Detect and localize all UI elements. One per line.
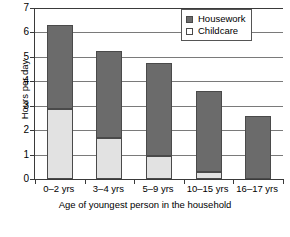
legend-label-childcare: Childcare xyxy=(198,26,238,36)
legend-label-housework: Housework xyxy=(198,14,246,24)
bar-segment-housework xyxy=(146,63,172,156)
bar-segment-childcare xyxy=(96,138,122,179)
x-tick-label: 0–2 yrs xyxy=(34,183,84,194)
legend-item-housework: Housework xyxy=(186,13,246,25)
x-tick-label: 16–17 yrs xyxy=(232,183,282,194)
bar-segment-housework xyxy=(47,25,73,109)
y-tick-6 xyxy=(30,32,35,33)
y-tick-label-2: 2 xyxy=(11,125,29,135)
bar-segment-housework xyxy=(96,51,122,138)
y-tick-label-4: 4 xyxy=(11,76,29,86)
bar-segment-housework xyxy=(196,91,222,172)
y-tick-label-6: 6 xyxy=(11,27,29,37)
bar-segment-childcare xyxy=(146,156,172,179)
chart-legend: Housework Childcare xyxy=(181,9,252,41)
x-axis-title: Age of youngest person in the household xyxy=(0,199,290,210)
stacked-bar-chart: Hours per day 76543210 0–2 yrs3–4 yrs5–9… xyxy=(0,0,290,237)
x-tick xyxy=(283,179,284,184)
y-tick-label-0: 0 xyxy=(11,174,29,184)
bar-segment-childcare xyxy=(47,109,73,179)
y-tick-4 xyxy=(30,81,35,82)
y-tick-label-7: 7 xyxy=(11,3,29,13)
x-tick-label: 10–15 yrs xyxy=(183,183,233,194)
bar-segment-housework xyxy=(245,116,271,180)
y-tick-3 xyxy=(30,106,35,107)
legend-item-childcare: Childcare xyxy=(186,25,246,37)
x-tick-label: 5–9 yrs xyxy=(133,183,183,194)
bar-group xyxy=(96,8,122,179)
bar-group xyxy=(146,8,172,179)
legend-swatch-childcare-icon xyxy=(186,28,193,35)
y-tick-2 xyxy=(30,130,35,131)
bar-segment-childcare xyxy=(196,172,222,179)
y-tick-7 xyxy=(30,8,35,9)
legend-swatch-housework-icon xyxy=(186,16,193,23)
y-tick-5 xyxy=(30,57,35,58)
y-tick-1 xyxy=(30,155,35,156)
x-tick-label: 3–4 yrs xyxy=(84,183,134,194)
y-tick-label-3: 3 xyxy=(11,101,29,111)
y-tick-label-5: 5 xyxy=(11,52,29,62)
y-tick-label-1: 1 xyxy=(11,150,29,160)
bar-group xyxy=(47,8,73,179)
